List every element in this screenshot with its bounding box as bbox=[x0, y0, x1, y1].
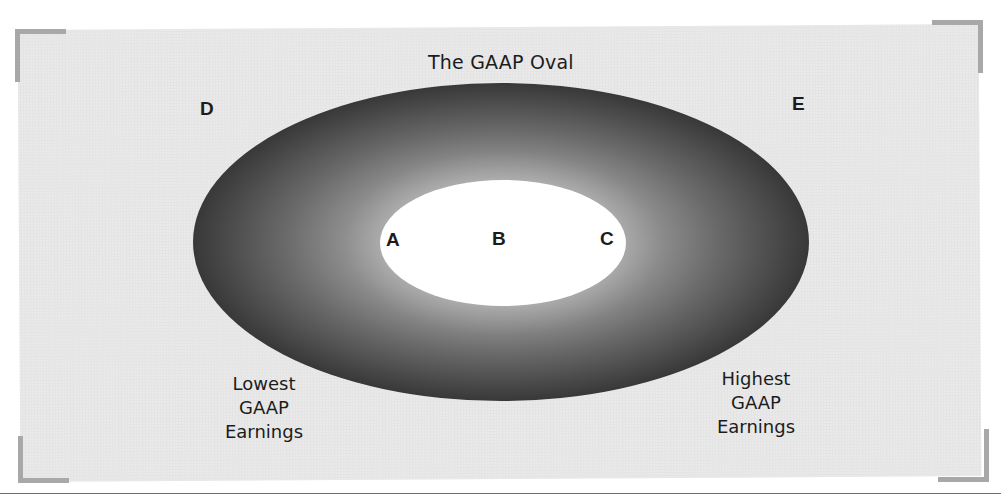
bottom-rule-divider bbox=[0, 493, 1001, 494]
gaap-oval-diagram bbox=[0, 0, 1001, 504]
caption-line: GAAP bbox=[700, 391, 812, 415]
lowest-gaap-earnings-caption: Lowest GAAP Earnings bbox=[214, 372, 314, 444]
caption-line: Earnings bbox=[214, 420, 314, 444]
point-label-d: D bbox=[200, 98, 214, 120]
point-label-a: A bbox=[386, 229, 400, 251]
point-label-e: E bbox=[792, 93, 805, 115]
point-label-c: C bbox=[600, 228, 614, 250]
caption-line: Earnings bbox=[700, 415, 812, 439]
caption-line: Highest bbox=[700, 367, 812, 391]
point-label-b: B bbox=[492, 228, 506, 250]
caption-line: Lowest bbox=[214, 372, 314, 396]
highest-gaap-earnings-caption: Highest GAAP Earnings bbox=[700, 367, 812, 439]
caption-line: GAAP bbox=[214, 396, 314, 420]
diagram-title: The GAAP Oval bbox=[428, 51, 574, 73]
